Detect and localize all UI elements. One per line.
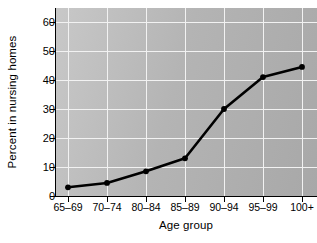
data-point: [65, 184, 71, 190]
plot-area: [56, 8, 317, 196]
series-markers: [65, 64, 305, 190]
series-polyline: [68, 67, 302, 187]
x-axis-title: Age group: [55, 219, 317, 231]
data-point: [260, 74, 266, 80]
data-point: [143, 168, 149, 174]
y-axis-line: [55, 8, 56, 197]
data-point: [299, 64, 305, 70]
data-point: [221, 106, 227, 112]
chart-figure: Percent in nursing homes 60 50 40 30 20 …: [0, 0, 317, 243]
x-axis-line: [55, 196, 317, 197]
data-series-line: [56, 8, 317, 196]
data-point: [104, 180, 110, 186]
y-axis-title: Percent in nursing homes: [3, 2, 21, 202]
x-tick-label: 100+: [279, 201, 317, 213]
data-point: [182, 155, 188, 161]
